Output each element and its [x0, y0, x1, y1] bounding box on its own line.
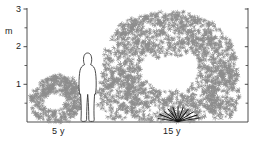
y-axis-unit-label: m: [5, 26, 13, 36]
young-shrub-5y: [28, 72, 83, 124]
y-tick-label-2: 2: [16, 41, 21, 51]
y-tick-label-3: 3: [16, 4, 21, 14]
mature-shrub-15y: [95, 9, 241, 124]
right-axis-ticks: [245, 9, 248, 103]
x-label-15y: 15 y: [163, 126, 181, 136]
y-tick-label-1: 1: [16, 79, 21, 89]
shrub-growth-figure: m 3 2 1 5 y 15 y: [0, 0, 259, 149]
y-axis-major-ticks: [24, 9, 28, 84]
x-label-5y: 5 y: [52, 126, 65, 136]
figure-canvas: [0, 0, 259, 149]
human-figure-silhouette: [79, 53, 96, 121]
